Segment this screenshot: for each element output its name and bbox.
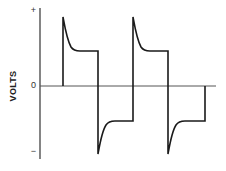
y-axis-label: VOLTS [8,68,18,104]
waveform-figure: VOLTS + 0 − [0,0,226,171]
y-tick-plus: + [26,6,36,15]
y-tick-zero: 0 [26,81,36,90]
y-tick-minus: − [26,147,36,156]
